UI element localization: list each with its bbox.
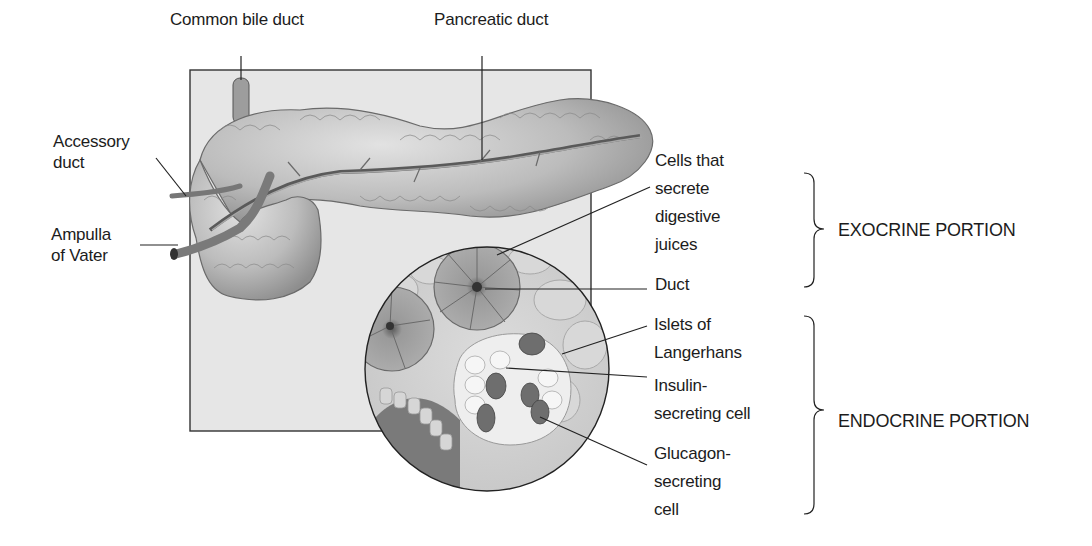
endocrine-brace xyxy=(804,316,824,514)
pancreas-illustration xyxy=(0,0,1092,546)
label-cells-secrete-juices: Cells that secrete digestive juices xyxy=(655,147,724,259)
label-exocrine-portion: EXOCRINE PORTION xyxy=(838,219,1016,241)
label-glucagon-secreting-cell: Glucagon- secreting cell xyxy=(654,440,731,524)
label-ampulla-of-vater: Ampulla of Vater xyxy=(51,224,111,266)
label-duct: Duct xyxy=(655,274,689,295)
islet-cluster xyxy=(454,333,571,445)
label-insulin-secreting-cell: Insulin- secreting cell xyxy=(654,372,750,428)
label-pancreatic-duct: Pancreatic duct xyxy=(434,9,548,30)
acinus-main xyxy=(434,244,520,330)
label-islets-of-langerhans: Islets of Langerhans xyxy=(654,311,742,367)
label-common-bile-duct: Common bile duct xyxy=(170,9,304,30)
label-accessory-duct: Accessory duct xyxy=(53,131,130,173)
label-endocrine-portion: ENDOCRINE PORTION xyxy=(838,410,1029,432)
exocrine-brace xyxy=(804,173,824,287)
